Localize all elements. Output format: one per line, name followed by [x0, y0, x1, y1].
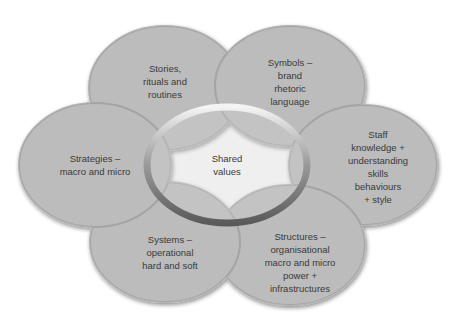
petal-label-staff: Staff knowledge + understanding skills b…	[328, 128, 428, 206]
petal-label-stories: Stories, rituals and routines	[120, 62, 210, 101]
petal-label-symbols: Symbols – brand rhetoric language	[245, 56, 335, 108]
petal-label-structures: Structures – organisational macro and mi…	[250, 230, 350, 295]
center-label: Shared values	[187, 152, 267, 178]
petal-label-systems: Systems – operational hard and soft	[120, 233, 220, 272]
petal-label-strategies: Strategies – macro and micro	[45, 152, 145, 178]
